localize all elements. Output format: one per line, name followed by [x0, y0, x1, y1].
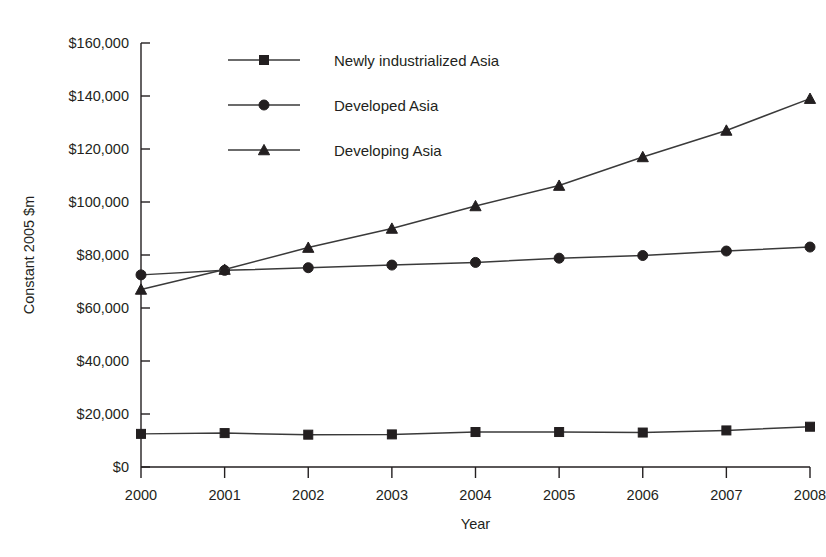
data-point	[387, 260, 397, 270]
data-point	[804, 93, 815, 103]
data-point	[137, 429, 146, 438]
x-tick-label: 2005	[543, 487, 575, 503]
y-tick-label: $100,000	[69, 194, 129, 210]
chart-canvas: $0$20,000$40,000$60,000$80,000$100,000$1…	[0, 0, 826, 557]
data-point	[806, 422, 815, 431]
data-point	[554, 180, 565, 190]
x-tick-label: 2008	[794, 487, 826, 503]
data-point	[554, 253, 564, 263]
y-tick-label: $20,000	[77, 406, 129, 422]
x-tick-label: 2004	[459, 487, 491, 503]
y-tick-label: $80,000	[77, 247, 129, 263]
y-tick-label: $40,000	[77, 353, 129, 369]
x-tick-label: 2007	[710, 487, 742, 503]
x-tick-label: 2000	[125, 487, 157, 503]
line-chart: $0$20,000$40,000$60,000$80,000$100,000$1…	[0, 0, 826, 557]
x-tick-label: 2003	[376, 487, 408, 503]
data-point	[471, 257, 481, 267]
y-tick-label: $60,000	[77, 300, 129, 316]
y-tick-label: $0	[113, 459, 129, 475]
data-point	[304, 430, 313, 439]
legend-item: Newly industrialized Asia	[228, 52, 500, 69]
series-2	[136, 242, 815, 280]
legend-item: Developing Asia	[228, 142, 442, 159]
legend-marker-circle	[259, 100, 269, 110]
data-point	[721, 125, 732, 135]
data-point	[303, 263, 313, 273]
data-point	[722, 426, 731, 435]
legend-label: Newly industrialized Asia	[334, 52, 500, 69]
data-point	[555, 428, 564, 437]
legend-label: Developed Asia	[334, 97, 439, 114]
y-tick-label: $120,000	[69, 141, 129, 157]
data-point	[638, 428, 647, 437]
x-tick-label: 2006	[627, 487, 659, 503]
data-point	[471, 428, 480, 437]
legend-label: Developing Asia	[334, 142, 442, 159]
y-axis-title: Constant 2005 $m	[21, 196, 37, 315]
x-axis-title: Year	[461, 516, 490, 532]
data-point	[387, 430, 396, 439]
data-point	[637, 151, 648, 161]
legend: Newly industrialized AsiaDeveloped AsiaD…	[228, 52, 500, 159]
x-tick-label: 2002	[292, 487, 324, 503]
data-point	[136, 270, 146, 280]
data-point	[638, 251, 648, 261]
data-point	[220, 429, 229, 438]
data-point	[805, 242, 815, 252]
x-tick-label: 2001	[208, 487, 240, 503]
legend-marker-square	[260, 56, 269, 65]
legend-item: Developed Asia	[228, 97, 439, 114]
y-tick-label: $160,000	[69, 35, 129, 51]
data-point	[721, 246, 731, 256]
series-1	[137, 422, 815, 439]
y-tick-label: $140,000	[69, 88, 129, 104]
